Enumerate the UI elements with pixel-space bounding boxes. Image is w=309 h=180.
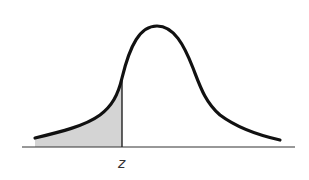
z-label: z bbox=[117, 155, 126, 171]
bell-curve bbox=[35, 26, 280, 140]
shaded-left-tail bbox=[35, 78, 122, 147]
normal-curve-diagram: z bbox=[0, 0, 309, 180]
